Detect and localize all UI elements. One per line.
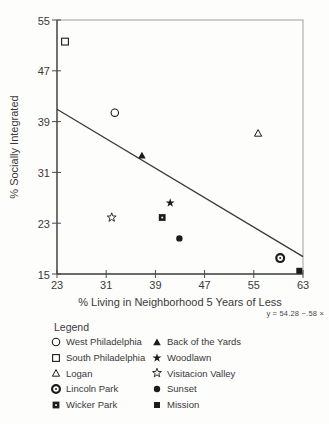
legend-item-lincoln-park: Lincoln Park (50, 381, 145, 397)
data-point-west-philadelphia (111, 109, 118, 116)
regression-equation-label: y = 54.28 −.58 × (266, 309, 324, 318)
legend-label: Logan (66, 368, 92, 379)
data-point-woodlawn (166, 198, 175, 207)
circle-bullseye-icon (50, 383, 63, 395)
star-open-icon (151, 367, 164, 379)
x-tick-label: 47 (192, 279, 218, 291)
data-point-south-philadelphia (62, 38, 69, 45)
square-open-icon (50, 352, 63, 364)
x-tick-label: 63 (290, 279, 316, 291)
y-tick-label: 47 (20, 65, 50, 77)
square-dot-icon (50, 399, 63, 411)
legend-item-logan: Logan (50, 365, 145, 381)
legend-label: Lincoln Park (66, 383, 118, 394)
legend-item-sunset: Sunset (151, 381, 241, 397)
x-tick-label: 39 (142, 279, 168, 291)
regression-line (57, 109, 303, 256)
legend-column-2: Back of the YardsWoodlawnVisitacion Vall… (151, 334, 241, 412)
y-tick-label: 31 (20, 167, 50, 179)
legend-label: Sunset (167, 383, 197, 394)
star-filled-icon (151, 352, 164, 364)
legend-label: Visitacion Valley (167, 368, 235, 379)
legend-item-wicker-park: Wicker Park (50, 397, 145, 413)
data-point-mission (296, 268, 302, 274)
legend-label: South Philadelphia (66, 352, 145, 363)
data-point-lincoln-park (276, 254, 284, 262)
legend-label: Wicker Park (66, 399, 117, 410)
legend-label: Back of the Yards (167, 336, 241, 347)
legend-item-visitacion-valley: Visitacion Valley (151, 365, 241, 381)
x-tick-label: 23 (44, 279, 70, 291)
legend-label: Mission (167, 399, 199, 410)
x-axis-label: % Living in Neighborhood 5 Years of Less (47, 296, 313, 308)
triangle-filled-icon (151, 336, 164, 348)
legend-column-1: West PhiladelphiaSouth PhiladelphiaLogan… (50, 334, 145, 412)
triangle-open-icon (50, 367, 63, 379)
y-tick-label: 23 (20, 218, 50, 230)
y-tick-label: 15 (20, 269, 50, 281)
legend-item-back-of-the-yards: Back of the Yards (151, 334, 241, 350)
data-point-logan (255, 130, 262, 137)
x-tick-label: 31 (93, 279, 119, 291)
y-axis-label: % Socially Integrated (8, 95, 20, 198)
data-point-visitacion-valley (107, 213, 116, 222)
legend-label: West Philadelphia (66, 336, 142, 347)
legend-item-south-philadelphia: South Philadelphia (50, 350, 145, 366)
circle-open-icon (50, 336, 63, 348)
legend-item-mission: Mission (151, 397, 241, 413)
data-point-sunset (176, 235, 182, 241)
legend-title: Legend (54, 321, 89, 333)
y-tick-label: 55 (20, 15, 50, 27)
scatterplot-figure: 233139475563152331394755 % Socially Inte… (0, 0, 329, 424)
circle-filled-icon (151, 383, 164, 395)
legend-item-woodlawn: Woodlawn (151, 350, 241, 366)
data-point-wicker-park (159, 214, 166, 221)
legend-item-west-philadelphia: West Philadelphia (50, 334, 145, 350)
legend-label: Woodlawn (167, 352, 211, 363)
x-tick-label: 55 (241, 279, 267, 291)
scatter-plot (0, 0, 329, 300)
data-point-back-of-the-yards (138, 152, 146, 159)
square-filled-icon (151, 399, 164, 411)
y-tick-label: 39 (20, 116, 50, 128)
